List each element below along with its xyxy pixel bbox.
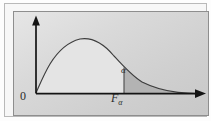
x-axis-arrowhead	[195, 89, 206, 98]
density-body-fill	[36, 39, 198, 94]
alpha-area-label: α	[121, 66, 126, 75]
y-axis-arrowhead	[32, 16, 40, 26]
critical-value-label: Fα	[111, 92, 123, 107]
origin-label: 0	[20, 90, 26, 102]
figure-root: 0 Fα α	[0, 0, 211, 121]
critical-value-subscript: α	[118, 98, 122, 107]
figure-outer-frame	[4, 3, 207, 117]
